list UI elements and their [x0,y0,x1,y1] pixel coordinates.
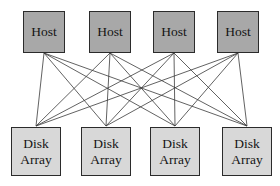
connection-line [44,53,247,126]
disk-array-label-line2: Array [159,152,190,167]
host-node-label: Host [97,24,123,39]
disk-array-label-line2: Array [231,152,262,167]
connection-line [36,53,238,126]
disk-array-label-line1: Disk [23,136,49,151]
connection-line [36,53,110,126]
host-node-label: Host [225,24,251,39]
disk-array-label-line2: Array [20,152,51,167]
host-node[interactable]: Host [217,11,259,53]
connection-line [36,53,174,126]
connection-line [238,53,247,126]
disk-array-node[interactable]: DiskArray [150,127,200,176]
disk-array-node[interactable]: DiskArray [11,127,61,176]
connection-line [174,53,175,126]
host-node[interactable]: Host [89,11,131,53]
host-node[interactable]: Host [23,11,65,53]
disk-array-node[interactable]: DiskArray [81,127,131,176]
disk-array-label-line1: Disk [234,136,260,151]
host-node-label: Host [161,24,187,39]
host-node[interactable]: Host [153,11,195,53]
host-node-label: Host [31,24,57,39]
connection-line [36,53,44,126]
connection-line [110,53,175,126]
connection-line [106,53,238,126]
disk-array-node[interactable]: DiskArray [222,127,272,176]
connection-line [110,53,247,126]
disk-array-label-line1: Disk [162,136,188,151]
topology-diagram: HostHostHostHostDiskArrayDiskArrayDiskAr… [0,0,280,186]
disk-array-label-line1: Disk [93,136,119,151]
disk-array-label-line2: Array [90,152,121,167]
connection-line [106,53,174,126]
